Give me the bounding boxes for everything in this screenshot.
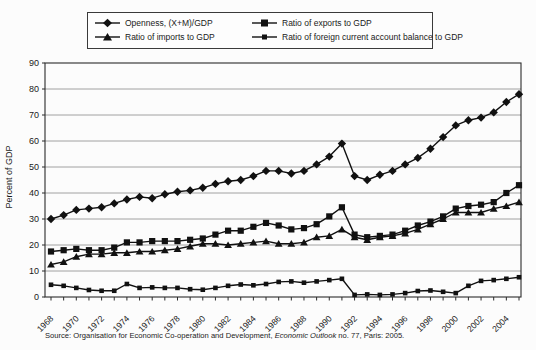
data-point-diamond [211,180,219,188]
data-point-small-square [289,279,294,284]
data-point-square [48,248,54,254]
data-point-small-square [302,280,307,285]
data-point-small-square [441,290,446,295]
series-current-account-balance [49,275,522,297]
data-point-square [250,224,256,230]
y-tick-label: 60 [29,136,39,146]
data-point-small-square [175,286,180,291]
data-point-diamond [199,184,207,192]
source-text: Source: Organisation for Economic Co-ope… [45,331,275,340]
y-tick-label: 80 [29,84,39,94]
data-point-square [516,182,522,188]
data-point-small-square [226,284,231,289]
y-tick-label: 90 [29,58,39,68]
y-tick-label: 0 [34,292,39,302]
data-point-square [491,199,497,205]
data-point-small-square [137,286,142,291]
data-point-small-square [314,279,319,284]
data-point-small-square [491,278,496,283]
data-point-diamond [287,169,295,177]
data-point-diamond [376,171,384,179]
data-point-small-square [251,283,256,288]
data-point-small-square [188,287,193,292]
data-point-diamond [224,177,232,185]
data-point-diamond [464,116,472,124]
data-point-square [326,213,332,219]
data-point-diamond [363,176,371,184]
data-point-small-square [378,293,383,298]
data-point-square [187,237,193,243]
data-point-small-square [504,277,509,282]
source-note: Source: Organisation for Economic Co-ope… [45,331,531,340]
data-point-small-square [213,286,218,291]
series-line-exports [51,185,519,251]
y-axis-labels: 0102030405060708090 [29,58,45,302]
series-line-current-account-balance [51,277,519,295]
data-point-small-square [163,286,168,291]
data-point-small-square [87,288,92,293]
data-point-small-square [453,291,458,296]
data-point-diamond [274,167,282,175]
data-point-square [314,221,320,227]
data-point-diamond [123,195,131,203]
y-tick-label: 30 [29,214,39,224]
source-text: no. 77, Paris: 2005. [336,331,404,340]
data-point-square [212,232,218,238]
data-point-small-square [264,282,269,287]
y-axis-title: Percent of GDP [4,139,14,215]
data-point-small-square [517,275,522,280]
chart-figure: Openness, (X+M)/GDP Ratio of exports to … [0,0,536,350]
plot-border [45,63,521,297]
data-point-diamond [59,211,67,219]
data-point-square [149,238,155,244]
data-point-diamond [350,172,358,180]
series-line-imports [51,202,519,264]
data-point-small-square [352,293,357,298]
data-point-square [225,228,231,234]
line-chart: 0102030405060708090196819701972197419761… [0,0,536,350]
data-point-small-square [466,284,471,289]
data-point-diamond [249,172,257,180]
data-point-small-square [416,289,421,294]
data-point-diamond [85,204,93,212]
data-point-small-square [238,282,243,287]
data-point-diamond [388,167,396,175]
data-point-square [301,225,307,231]
data-point-small-square [428,288,433,293]
data-point-small-square [61,284,66,289]
data-point-diamond [161,190,169,198]
data-point-small-square [403,291,408,296]
data-point-small-square [200,287,205,292]
data-point-diamond [72,206,80,214]
data-point-diamond [135,193,143,201]
data-point-diamond [515,90,523,98]
data-point-square [288,226,294,232]
data-point-square [238,228,244,234]
data-point-square [276,222,282,228]
series-openness [47,90,523,223]
source-italic-text: Economic Outlook [275,331,337,340]
data-point-square [263,220,269,226]
data-point-small-square [125,282,130,287]
data-point-small-square [390,292,395,297]
series-imports [47,199,523,268]
data-point-triangle [338,226,346,233]
data-point-square [73,246,79,252]
data-point-small-square [112,288,117,293]
y-tick-label: 70 [29,110,39,120]
y-tick-label: 10 [29,266,39,276]
data-point-diamond [173,188,181,196]
data-point-square [339,204,345,210]
data-point-diamond [110,199,118,207]
data-point-square [124,239,130,245]
data-point-small-square [365,292,370,297]
data-point-square [503,190,509,196]
data-point-square [162,238,168,244]
data-point-small-square [49,282,54,287]
data-point-small-square [479,279,484,284]
data-point-square [478,202,484,208]
data-point-diamond [148,194,156,202]
data-point-small-square [340,277,345,282]
y-tick-label: 50 [29,162,39,172]
y-tick-label: 40 [29,188,39,198]
